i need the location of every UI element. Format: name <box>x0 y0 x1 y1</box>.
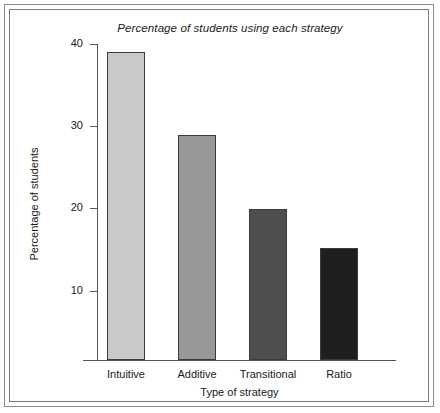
y-axis-line <box>97 44 98 361</box>
y-tick-label-10: 10 <box>55 284 83 296</box>
x-axis-title: Type of strategy <box>83 386 396 398</box>
y-tick-label-30: 30 <box>55 119 83 131</box>
y-tick-mark-40 <box>90 44 98 45</box>
x-axis-line <box>83 360 396 361</box>
bar-chart-plot-area: Percentage of students using each strate… <box>0 0 440 413</box>
bar-transitional <box>249 209 287 360</box>
y-axis-title: Percentage of students <box>28 124 40 284</box>
y-tick-mark-20 <box>90 208 98 209</box>
bar-additive <box>178 135 216 360</box>
y-tick-label-40: 40 <box>55 37 83 49</box>
y-tick-mark-10 <box>90 291 98 292</box>
y-tick-mark-30 <box>90 126 98 127</box>
bar-intuitive <box>107 52 145 360</box>
x-tick-label-ratio: Ratio <box>279 368 399 380</box>
chart-title: Percentage of students using each strate… <box>60 22 400 34</box>
bar-ratio <box>320 248 358 360</box>
y-tick-label-20: 20 <box>55 201 83 213</box>
